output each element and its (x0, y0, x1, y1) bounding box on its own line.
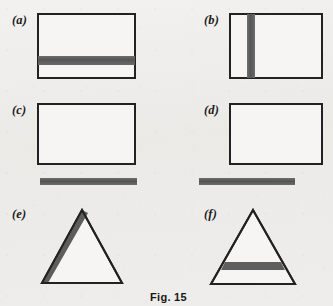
panel-c-separate-bar (40, 178, 137, 185)
figure-15: (a) (b) (c) (d) (e) (f) (0, 0, 333, 306)
panel-b-rectangle (229, 13, 323, 79)
panel-f-triangle-svg (190, 205, 305, 290)
panel-e-label: (e) (12, 208, 26, 221)
panel-b-label: (b) (204, 14, 219, 27)
panel-f-triangle-outline (211, 210, 295, 284)
panel-c-label: (c) (12, 104, 26, 117)
panel-f-horizontal-band (221, 262, 285, 270)
panel-b-vertical-band (247, 14, 255, 78)
panel-a-label: (a) (12, 14, 27, 27)
figure-caption: Fig. 15 (150, 291, 187, 303)
panel-f-triangle-area (190, 205, 305, 290)
panel-a-rectangle (37, 13, 136, 79)
panel-d-rectangle (229, 103, 323, 165)
panel-c-rectangle (37, 103, 136, 165)
panel-d-label: (d) (204, 104, 219, 117)
panel-e-triangle-svg (33, 205, 133, 290)
panel-e-triangle-area (33, 205, 133, 290)
panel-a-horizontal-band (38, 56, 135, 65)
panel-d-separate-bar (199, 178, 295, 185)
